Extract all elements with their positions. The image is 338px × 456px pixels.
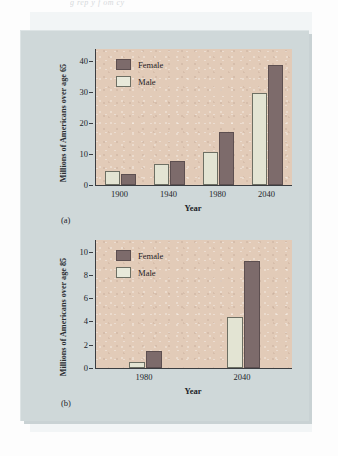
bar-male — [154, 164, 169, 185]
y-tick-label: 40 — [80, 56, 89, 66]
y-tick-label: 20 — [80, 118, 89, 128]
chart-b: Millions of Americans over age 85 024681… — [59, 236, 297, 411]
x-tick-label: 1940 — [160, 189, 177, 199]
chart-a: Millions of Americans over age 65 010203… — [59, 45, 297, 230]
legend-swatch-female-icon — [116, 59, 131, 70]
x-tick-label: 1980 — [136, 372, 153, 382]
legend-entry-male: Male — [116, 265, 163, 280]
chart-a-x-axis-title: Year — [95, 203, 291, 213]
y-tick-label: 8 — [84, 270, 88, 280]
chart-a-panel-label: (a) — [61, 215, 70, 225]
y-tick-label: 10 — [80, 247, 89, 257]
legend-label-female: Female — [138, 251, 163, 261]
figure-mount-panel: Millions of Americans over age 65 010203… — [20, 30, 309, 421]
y-tick-label: 0 — [84, 180, 88, 190]
chart-b-legend: Female Male — [116, 248, 163, 282]
y-tick-label: 30 — [80, 87, 89, 97]
bar-female — [146, 351, 162, 368]
bar-male — [203, 152, 218, 185]
figure-page: g rep y f om cy Millions of Americans ov… — [0, 0, 338, 456]
bar-female — [219, 132, 234, 185]
bar-female — [268, 65, 283, 185]
legend-entry-female: Female — [116, 248, 163, 263]
chart-b-panel-label: (b) — [61, 398, 71, 408]
bar-male — [252, 93, 267, 185]
x-tick-label: 1980 — [209, 189, 226, 199]
legend-label-male: Male — [138, 268, 156, 278]
chart-b-y-ticks: 0246810 — [73, 240, 93, 368]
legend-label-female: Female — [138, 60, 163, 70]
chart-b-y-axis-title: Millions of Americans over age 85 — [57, 246, 70, 388]
y-tick-label: 0 — [84, 363, 88, 373]
legend-swatch-female-icon — [116, 250, 131, 261]
bar-female — [170, 161, 185, 185]
chart-b-plot-area: Female Male — [95, 240, 292, 369]
legend-swatch-male-icon — [116, 76, 131, 87]
legend-swatch-male-icon — [116, 267, 131, 278]
bar-male — [227, 317, 243, 368]
y-tick-label: 2 — [84, 340, 88, 350]
legend-label-male: Male — [138, 77, 156, 87]
chart-b-x-axis-title: Year — [95, 386, 291, 396]
x-tick-label: 1900 — [111, 189, 128, 199]
chart-a-legend: Female Male — [116, 57, 163, 91]
bar-male — [105, 171, 120, 185]
caption-remnant-text: g rep y f om cy — [70, 0, 280, 8]
x-tick-label: 2040 — [234, 372, 251, 382]
x-tick-label: 2040 — [258, 189, 275, 199]
y-tick-label: 4 — [84, 316, 88, 326]
bar-male — [129, 362, 145, 368]
bar-female — [121, 174, 136, 185]
chart-a-plot-area: Female Male — [95, 49, 292, 186]
legend-entry-male: Male — [116, 74, 163, 89]
chart-a-y-ticks: 010203040 — [73, 49, 93, 185]
y-tick-label: 6 — [84, 293, 88, 303]
chart-a-y-axis-title: Millions of Americans over age 65 — [57, 49, 70, 197]
y-tick-label: 10 — [80, 149, 89, 159]
bar-female — [244, 261, 260, 368]
legend-entry-female: Female — [116, 57, 163, 72]
